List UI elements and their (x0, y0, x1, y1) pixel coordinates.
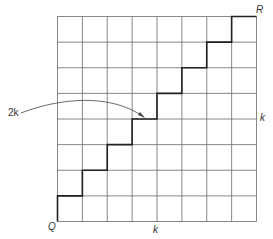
label-r: R (256, 4, 263, 15)
label-q: Q (48, 221, 56, 232)
label-k-right: k (260, 112, 265, 123)
grid-diagram (0, 0, 273, 239)
arrowhead-icon (138, 112, 145, 118)
label-2k: 2k (8, 107, 19, 118)
label-k-bottom: k (153, 224, 158, 235)
